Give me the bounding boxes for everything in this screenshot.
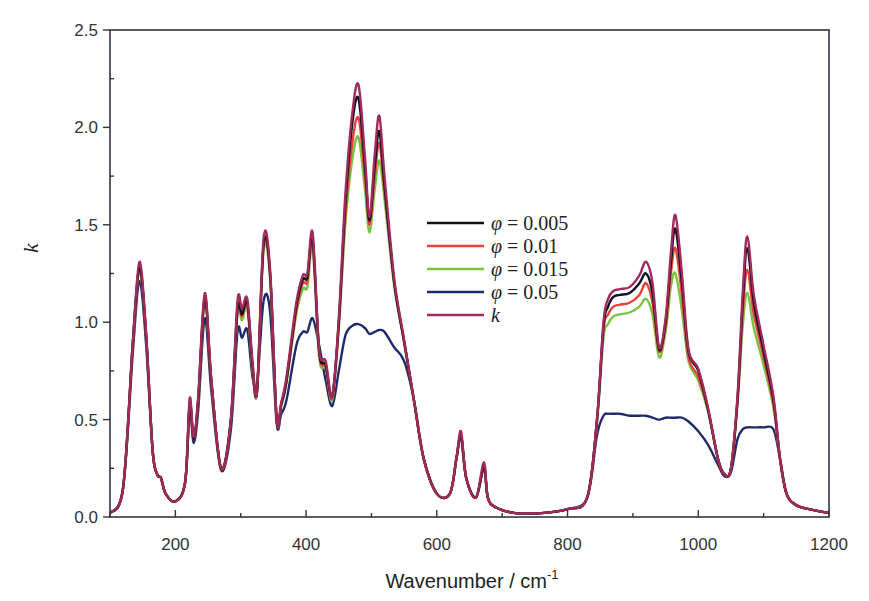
y-tick-label: 0.0 [74, 508, 98, 527]
x-tick-label: 1000 [679, 535, 717, 554]
chart-background [0, 0, 869, 601]
y-tick-label: 1.0 [74, 313, 98, 332]
chart: 20040060080010001200 0.00.51.01.52.02.5 … [0, 0, 869, 601]
x-tick-label: 1200 [810, 535, 848, 554]
x-axis-title: Wavenumber / cm-1 [385, 567, 558, 592]
y-axis-title: k [18, 242, 43, 253]
legend-label: φ = 0.015 [491, 258, 568, 281]
legend-label: k [491, 304, 501, 326]
x-tick-label: 600 [423, 535, 451, 554]
y-tick-label: 0.5 [74, 411, 98, 430]
y-tick-label: 2.5 [74, 21, 98, 40]
y-tick-label: 1.5 [74, 216, 98, 235]
x-tick-label: 400 [292, 535, 320, 554]
legend-label: φ = 0.01 [491, 235, 558, 258]
legend-label: φ = 0.005 [491, 212, 568, 235]
y-tick-label: 2.0 [74, 118, 98, 137]
legend-label: φ = 0.05 [491, 281, 558, 304]
x-tick-label: 800 [553, 535, 581, 554]
x-tick-label: 200 [161, 535, 189, 554]
